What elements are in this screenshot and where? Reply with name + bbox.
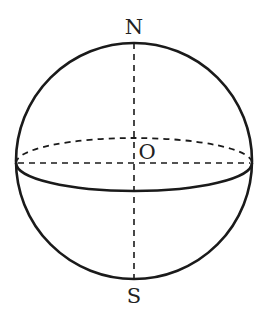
sphere-diagram: N O S [0, 0, 274, 314]
label-south: S [127, 284, 141, 308]
label-north: N [125, 15, 143, 39]
equator-back-arc [16, 138, 252, 163]
label-center: O [138, 140, 155, 164]
